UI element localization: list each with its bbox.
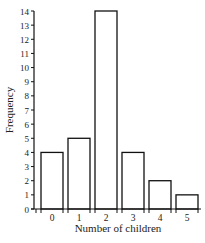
- y-tick-label: 1: [25, 190, 30, 200]
- bar-chart: 01234567891011121314 012345 Frequency Nu…: [0, 0, 205, 243]
- bar-1: [68, 138, 90, 209]
- bar-2: [95, 11, 117, 209]
- x-tick-label: 0: [50, 213, 55, 223]
- y-tick-label: 13: [20, 21, 30, 31]
- bars: [41, 11, 198, 209]
- x-axis-label: Number of children: [75, 222, 162, 234]
- y-tick-label: 3: [25, 162, 30, 172]
- y-tick-label: 7: [25, 106, 30, 116]
- y-tick-label: 2: [25, 176, 30, 186]
- y-tick-label: 6: [25, 120, 30, 130]
- y-tick-label: 5: [25, 134, 30, 144]
- y-tick-label: 14: [20, 7, 30, 17]
- x-tick-label: 5: [185, 213, 190, 223]
- y-axis-label: Frequency: [3, 86, 15, 133]
- bar-5: [176, 195, 198, 209]
- y-tick-label: 8: [25, 91, 30, 101]
- y-tick-label: 4: [25, 148, 30, 158]
- y-axis: 01234567891011121314: [20, 7, 34, 215]
- y-tick-label: 12: [20, 35, 29, 45]
- bar-3: [122, 152, 144, 209]
- y-tick-label: 0: [25, 205, 30, 215]
- y-tick-label: 10: [20, 63, 30, 73]
- x-axis: 012345: [31, 209, 201, 223]
- y-tick-label: 9: [25, 77, 30, 87]
- bar-0: [41, 152, 63, 209]
- bar-4: [149, 181, 171, 209]
- y-tick-label: 11: [20, 49, 29, 59]
